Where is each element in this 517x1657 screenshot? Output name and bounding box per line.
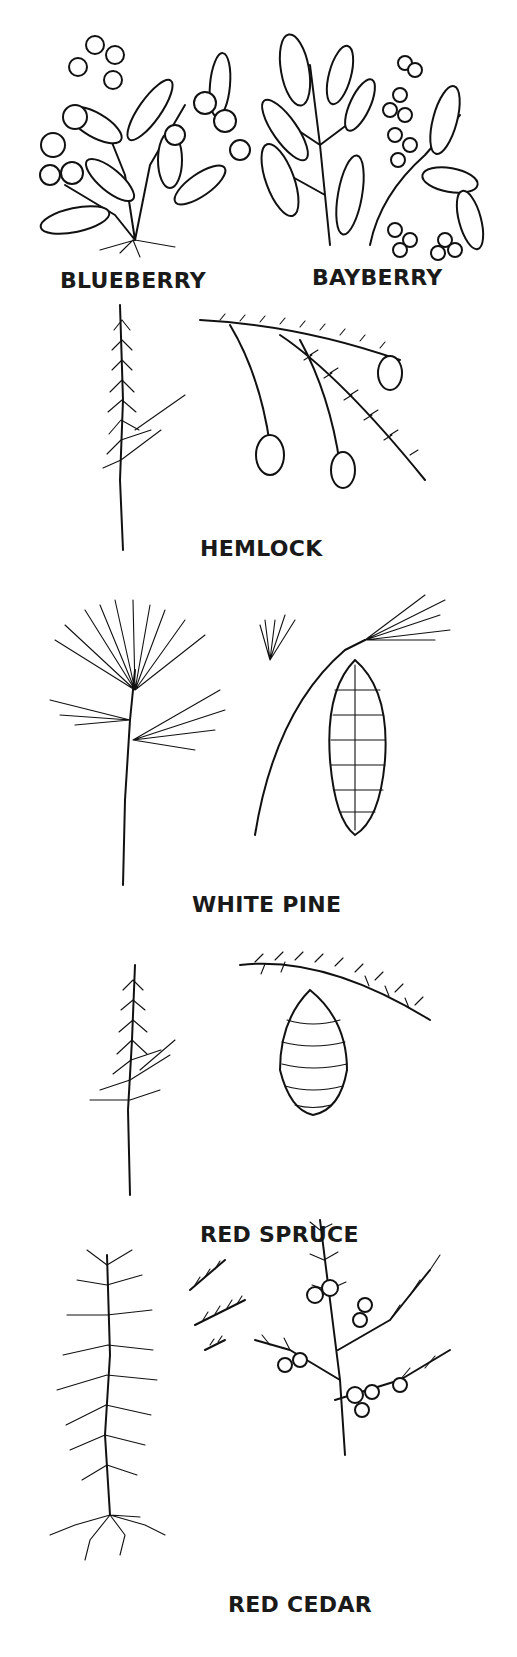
label-red-cedar: RED CEDAR [228,1592,372,1617]
bayberry-drawing [250,25,490,285]
white-pine-twig-drawing [45,600,245,890]
red-spruce-cone-drawing [235,950,435,1120]
panel-blueberry-bayberry: BLUEBERRY BAYBERRY [0,0,517,300]
label-bayberry: BAYBERRY [312,265,442,290]
white-pine-cone-drawing [255,590,455,850]
label-white-pine: WHITE PINE [192,892,341,917]
label-hemlock: HEMLOCK [200,536,323,561]
red-cedar-seedling-drawing [45,1235,195,1565]
panel-red-cedar: RED CEDAR [0,1250,517,1657]
label-blueberry: BLUEBERRY [60,268,206,293]
blueberry-drawing [15,25,255,285]
red-spruce-sprig-drawing [80,960,190,1200]
hemlock-branch-drawing [200,315,440,505]
hemlock-sprig-drawing [75,300,195,550]
panel-hemlock: HEMLOCK [0,300,517,600]
red-cedar-branch-drawing [250,1200,460,1460]
panel-white-pine: WHITE PINE [0,600,517,960]
